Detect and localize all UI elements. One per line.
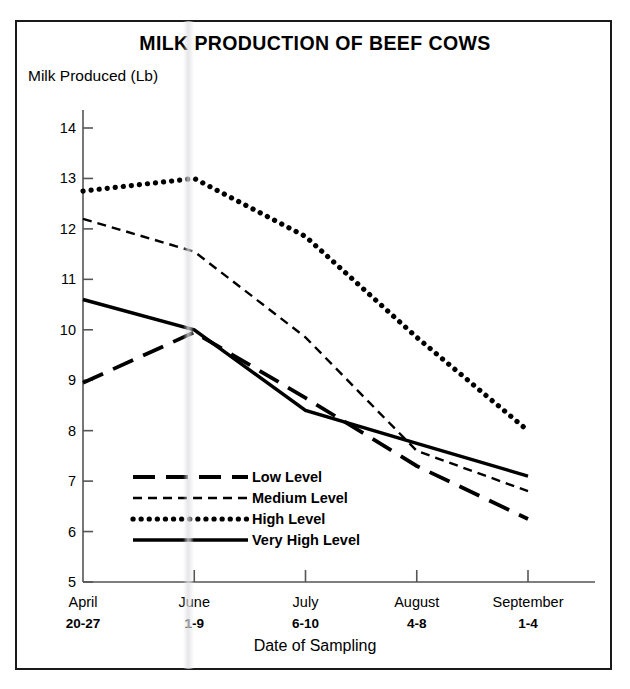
chart-legend: Low LevelMedium LevelHigh LevelVery High…: [133, 469, 360, 548]
x-category-days: 1-4: [493, 613, 564, 634]
y-tick-label: 11: [61, 271, 76, 287]
x-category-month: August: [394, 592, 439, 613]
x-category-days: 20-27: [66, 613, 101, 634]
y-tick-label: 13: [60, 170, 76, 186]
x-axis-title: Date of Sampling: [0, 637, 630, 655]
x-category-days: 4-8: [394, 613, 439, 634]
x-axis-ticks: [194, 570, 528, 582]
y-axis-ticks: 567891011121314: [60, 120, 93, 590]
y-tick-label: 10: [60, 322, 76, 338]
x-category-label: July6-10: [292, 592, 319, 634]
legend-label-low-level: Low Level: [252, 469, 322, 485]
x-category-month: June: [179, 592, 210, 613]
legend-label-medium-level: Medium Level: [252, 490, 348, 506]
x-category-month: September: [493, 592, 564, 613]
x-category-label: August4-8: [394, 592, 439, 634]
y-tick-label: 12: [60, 221, 76, 237]
y-tick-label: 5: [68, 574, 76, 590]
x-category-month: July: [292, 592, 319, 613]
x-category-month: April: [66, 592, 101, 613]
series-line-high-level: [83, 178, 528, 430]
line-chart-plot: 567891011121314 Low LevelMedium LevelHig…: [0, 0, 630, 689]
x-category-days: 1-9: [179, 613, 210, 634]
y-tick-label: 14: [60, 120, 76, 136]
series-line-medium-level: [83, 219, 528, 491]
x-category-label: September1-4: [493, 592, 564, 634]
x-category-days: 6-10: [292, 613, 319, 634]
y-tick-label: 8: [68, 423, 76, 439]
y-tick-label: 6: [68, 524, 76, 540]
x-category-label: April20-27: [66, 592, 101, 634]
legend-label-very-high-level: Very High Level: [252, 532, 360, 548]
y-tick-label: 9: [68, 372, 76, 388]
figure-canvas: MILK PRODUCTION OF BEEF COWS Milk Produc…: [0, 0, 630, 689]
y-tick-label: 7: [68, 473, 76, 489]
series-line-very-high-level: [83, 300, 528, 477]
legend-label-high-level: High Level: [252, 511, 325, 527]
x-category-label: June1-9: [179, 592, 210, 634]
